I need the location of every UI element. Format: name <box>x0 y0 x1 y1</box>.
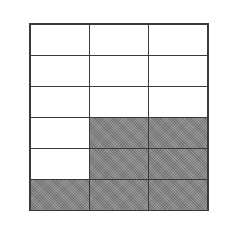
unshaded-cell <box>148 86 208 118</box>
unshaded-cell <box>30 117 90 149</box>
unshaded-cell <box>89 24 149 56</box>
fraction-grid <box>29 23 209 211</box>
unshaded-cell <box>89 55 149 87</box>
unshaded-cell <box>30 148 90 180</box>
unshaded-cell <box>30 86 90 118</box>
shaded-cell <box>89 179 149 211</box>
shaded-cell <box>148 117 208 149</box>
unshaded-cell <box>30 55 90 87</box>
shaded-cell <box>148 148 208 180</box>
shaded-cell <box>148 179 208 211</box>
shaded-cell <box>89 148 149 180</box>
unshaded-cell <box>148 55 208 87</box>
shaded-cell <box>89 117 149 149</box>
unshaded-cell <box>89 86 149 118</box>
unshaded-cell <box>148 24 208 56</box>
shaded-cell <box>30 179 90 211</box>
unshaded-cell <box>30 24 90 56</box>
